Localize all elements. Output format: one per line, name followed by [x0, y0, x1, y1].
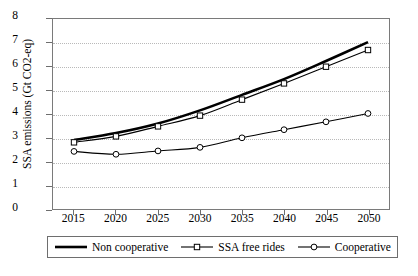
x-tick-mark	[158, 210, 159, 215]
data-point-marker	[71, 140, 76, 145]
legend-swatch-circle-icon	[297, 241, 331, 253]
legend-swatch-square-icon	[180, 241, 214, 253]
data-point-marker	[197, 144, 203, 150]
x-tick-mark	[115, 210, 116, 215]
data-point-marker	[197, 113, 202, 118]
x-tick-mark	[200, 210, 201, 215]
data-point-marker	[365, 47, 370, 52]
data-point-marker	[113, 151, 119, 157]
legend-item: Cooperative	[297, 241, 391, 253]
legend-item: Non cooperative	[54, 241, 168, 253]
data-point-marker	[113, 134, 118, 139]
data-point-marker	[155, 148, 161, 154]
legend-swatch-none-icon	[54, 241, 88, 253]
y-axis-title: SSA emissions (Gt CO2-eq)	[21, 9, 33, 199]
data-point-marker	[281, 81, 286, 86]
data-point-marker	[365, 111, 371, 117]
series-canvas	[53, 19, 389, 210]
series-line	[74, 42, 368, 140]
data-point-marker	[281, 127, 287, 133]
chart-legend: Non cooperativeSSA free ridesCooperative	[47, 236, 398, 258]
series-non-cooperative	[74, 42, 368, 140]
data-point-marker	[323, 119, 329, 125]
data-point-marker	[155, 124, 160, 129]
data-point-marker	[71, 149, 77, 155]
x-tick-mark	[242, 210, 243, 215]
y-tick-mark	[46, 210, 52, 211]
x-tick-mark	[369, 210, 370, 215]
data-point-marker	[323, 64, 328, 69]
data-point-marker	[239, 135, 245, 141]
legend-label: Cooperative	[335, 241, 391, 253]
legend-label: Non cooperative	[92, 241, 168, 253]
legend-item: SSA free rides	[180, 241, 284, 253]
legend-label: SSA free rides	[218, 241, 284, 253]
x-tick-mark	[284, 210, 285, 215]
x-tick-mark	[73, 210, 74, 215]
plot-area	[52, 18, 390, 210]
x-tick-mark	[327, 210, 328, 215]
chart-figure: SSA emissions (Gt CO2-eq) 012345678 2015…	[0, 0, 418, 276]
data-point-marker	[239, 97, 244, 102]
